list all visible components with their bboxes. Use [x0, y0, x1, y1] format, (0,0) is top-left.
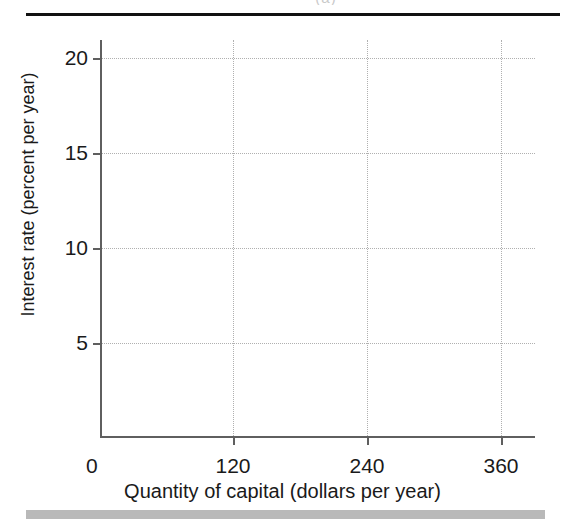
xtick-label-120: 120 [215, 454, 250, 478]
tick-x-240 [367, 436, 369, 445]
figure-panel: (a) 20 15 10 5 120 240 360 0 Interest ra… [0, 0, 565, 531]
plot-area: 20 15 10 5 120 240 360 [102, 40, 535, 436]
xtick-label-360: 360 [483, 454, 518, 478]
top-divider-rule [26, 13, 560, 16]
tick-x-360 [501, 436, 503, 445]
bottom-divider-bar [26, 510, 545, 519]
ytick-label-5: 5 [76, 331, 88, 355]
gridline-y-15 [102, 153, 535, 155]
tick-y-5 [93, 343, 102, 345]
gridline-y-20 [102, 58, 535, 60]
ytick-label-20: 20 [65, 46, 88, 70]
y-axis-title: Interest rate (percent per year) [18, 15, 39, 375]
tick-x-120 [233, 436, 235, 445]
x-axis-line [100, 436, 535, 438]
gridline-x-360 [501, 40, 503, 436]
x-axis-title: Quantity of capital (dollars per year) [0, 480, 565, 503]
ytick-label-15: 15 [65, 141, 88, 165]
tick-y-20 [93, 58, 102, 60]
tick-y-15 [93, 153, 102, 155]
gridline-y-5 [102, 343, 535, 345]
xtick-label-240: 240 [349, 454, 384, 478]
gridline-x-120 [233, 40, 235, 436]
panel-caption-remnant: (a) [296, 0, 356, 5]
ytick-label-10: 10 [65, 236, 88, 260]
gridline-y-10 [102, 248, 535, 250]
gridline-x-240 [367, 40, 369, 436]
tick-y-10 [93, 248, 102, 250]
xtick-label-0: 0 [86, 454, 98, 478]
